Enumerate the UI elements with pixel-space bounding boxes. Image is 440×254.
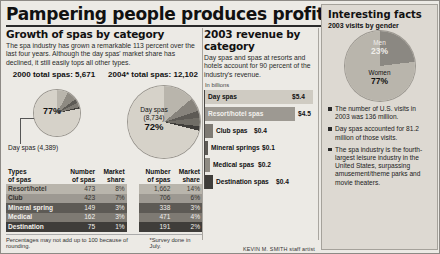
row-type: Resort/hotel xyxy=(6,184,63,194)
fact-text: Day spas accounted for 81.2 million of t… xyxy=(335,125,419,140)
row-number-2004: 191 xyxy=(139,222,173,232)
header-share-2004-line2: share xyxy=(182,176,200,183)
column-divider-2 xyxy=(318,28,319,240)
bar-value-resort-hotel-spas: $4.5 xyxy=(298,110,311,117)
row-number-2004: 1,662 xyxy=(139,184,173,194)
header-number-2000-line2: of spas xyxy=(72,176,95,183)
pie-2004-label-group: Day spas (8,734) 72% xyxy=(131,106,177,131)
growth-heading: Growth of spas by category xyxy=(6,28,202,40)
interesting-facts-panel: Interesting facts 2003 visits by gender … xyxy=(321,4,438,250)
row-spacer xyxy=(127,194,139,204)
row-number-2000: 162 xyxy=(63,213,97,223)
bar-label-destination-spas: Destination spas xyxy=(216,178,269,185)
pie-2000-percent: 77% xyxy=(32,106,72,116)
table-row: Destination 75 1% 191 2% xyxy=(6,222,202,232)
row-share-2000: 1% xyxy=(97,222,127,232)
gender-pie-chart: Men 23% Women 77% xyxy=(345,31,415,101)
bar-label-day-spas: Day spas xyxy=(208,93,237,100)
pie-2004-label: Day spas xyxy=(140,106,168,113)
bar-row: Medical spas $0.2 xyxy=(205,158,317,172)
bar-medical-spas xyxy=(205,158,210,172)
row-number-2000: 473 xyxy=(63,184,97,194)
pie-2004-group: 2004* total spas: 12,102 Day spas (8,734… xyxy=(104,70,202,79)
header-number-2000-line1: Number xyxy=(70,168,95,175)
bullet-square-icon xyxy=(328,107,332,111)
pie-2000-label: Day spas (4,389) xyxy=(8,144,58,151)
table-row: Medical 162 3% 471 4% xyxy=(6,213,202,223)
gender-men-label-group: Men 23% xyxy=(363,39,397,55)
bar-value-destination-spas: $0.4 xyxy=(276,178,289,185)
header-share-2004: Market share xyxy=(172,168,202,184)
row-share-2000: 3% xyxy=(97,203,127,213)
growth-blurb: The spa industry has grown a remarkable … xyxy=(6,42,202,67)
gender-women-percent: 77% xyxy=(359,77,401,85)
bar-row: Club spas $0.4 xyxy=(205,124,317,138)
bar-value-medical-spas: $0.2 xyxy=(258,161,271,168)
row-spacer xyxy=(127,184,139,194)
column-divider-1 xyxy=(202,28,203,240)
gender-men-percent: 23% xyxy=(363,47,397,55)
row-share-2004: 14% xyxy=(172,184,202,194)
bullet-square-icon xyxy=(328,127,332,131)
revenue-bar-chart: Day spas $5.4 Resort/hotel spas $4.5 Clu… xyxy=(204,90,317,189)
bar-value-club-spas: $0.4 xyxy=(254,127,267,134)
row-spacer xyxy=(127,222,139,232)
row-spacer xyxy=(127,203,139,213)
bar-mineral-springs xyxy=(205,141,208,155)
fact-item: The number of U.S. visits in 2003 was 13… xyxy=(328,105,431,121)
header-share-2000: Market share xyxy=(97,168,127,184)
row-type: Destination xyxy=(6,222,63,232)
revenue-section: 2003 revenue by category Day spas and sp… xyxy=(204,28,317,250)
leader-line-vertical xyxy=(20,118,21,144)
fact-item: The spa industry is the fourth-largest l… xyxy=(328,146,431,187)
bullet-square-icon xyxy=(328,148,332,152)
table-header-row: Types of spas Number of spas Market shar… xyxy=(6,168,202,184)
pie-2000-group: 2000 total spas: 5,671 77% Day spas (4,3… xyxy=(6,70,102,79)
bar-row: Mineral springs $0.1 xyxy=(205,141,317,155)
pie-2000-title: 2000 total spas: 5,671 xyxy=(6,70,102,79)
row-share-2000: 8% xyxy=(97,184,127,194)
row-number-2000: 75 xyxy=(63,222,97,232)
fact-text: The number of U.S. visits in 2003 was 13… xyxy=(335,105,416,120)
pie-2004-title: 2004* total spas: 12,102 xyxy=(104,70,202,79)
fact-item: Day spas accounted for 81.2 million of t… xyxy=(328,125,431,141)
row-share-2004: 3% xyxy=(172,203,202,213)
row-share-2004: 4% xyxy=(172,213,202,223)
pie-2004-count: (8,734) xyxy=(144,114,165,121)
revenue-units-label: In billions xyxy=(205,82,317,88)
row-share-2004: 6% xyxy=(172,194,202,204)
header-types-line2: of spas xyxy=(8,176,31,183)
fact-text: The spa industry is the fourth-largest l… xyxy=(335,146,422,186)
header-number-2000: Number of spas xyxy=(63,168,97,184)
footnote-survey: *Survey done in July. xyxy=(149,237,202,249)
table-row: Resort/hotel 473 8% 1,662 14% xyxy=(6,184,202,194)
bar-row: Destination spas $0.4 xyxy=(205,175,317,189)
header-number-2004-line2: of spas xyxy=(147,176,170,183)
leader-line-horizontal xyxy=(20,118,34,119)
row-number-2004: 338 xyxy=(139,203,173,213)
header-spacer xyxy=(127,168,139,184)
gender-women-label-group: Women 77% xyxy=(359,69,401,85)
artist-credit: KEVIN M. SMITH staff artist xyxy=(243,246,315,252)
revenue-blurb: Day spas and spas at resorts and hotels … xyxy=(204,54,317,79)
bar-label-mineral-springs: Mineral springs xyxy=(211,144,260,151)
bar-row: Resort/hotel spas $4.5 xyxy=(205,107,317,121)
row-number-2000: 423 xyxy=(63,194,97,204)
bar-club-spas xyxy=(205,124,213,138)
table-row: Mineral spring 149 3% 338 3% xyxy=(6,203,202,213)
row-spacer xyxy=(127,213,139,223)
header-types-line1: Types xyxy=(8,168,27,175)
gender-women-label: Women xyxy=(369,69,391,76)
table-row: Club 423 7% 706 6% xyxy=(6,194,202,204)
gender-men-label: Men xyxy=(373,39,385,46)
bar-destination-spas xyxy=(205,175,213,189)
header-number-2004: Number of spas xyxy=(139,168,173,184)
row-share-2004: 2% xyxy=(172,222,202,232)
row-type: Club xyxy=(6,194,63,204)
infographic-page: Pampering people produces profit Growth … xyxy=(0,0,440,254)
bar-label-club-spas: Club spas xyxy=(216,127,248,134)
bar-row: Day spas $5.4 xyxy=(205,90,317,104)
bar-label-resort-hotel-spas: Resort/hotel spas xyxy=(208,110,263,117)
row-number-2000: 149 xyxy=(63,203,97,213)
pie-charts-group: 2000 total spas: 5,671 77% Day spas (4,3… xyxy=(6,70,202,166)
